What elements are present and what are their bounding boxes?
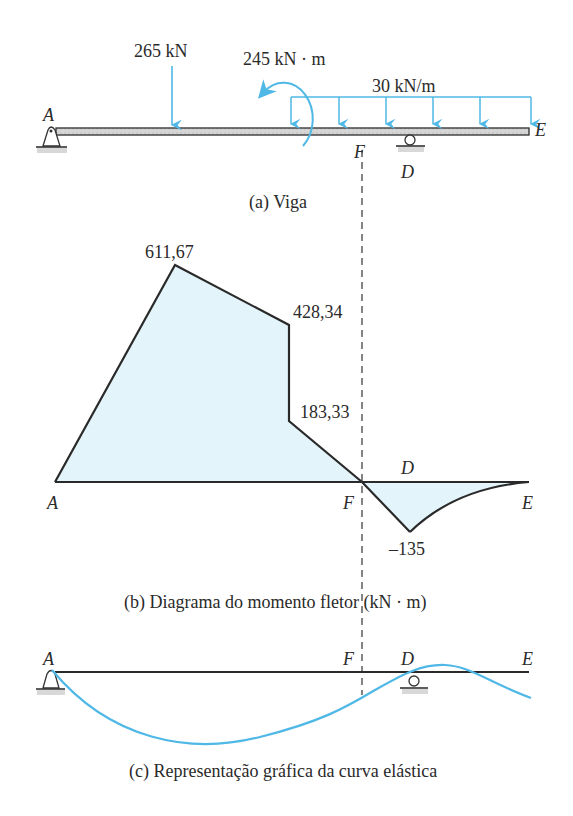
beam [56, 128, 529, 135]
moment-value-max: 611,67 [145, 243, 194, 261]
moment-value-min: –135 [389, 540, 425, 558]
point-label-a: A [43, 106, 54, 124]
point-load-label: 265 kN [134, 42, 188, 60]
roller-support-icon [400, 676, 428, 694]
curve-point-e: E [522, 650, 533, 668]
caption-b: (b) Diagrama do momento fletor (kN · m) [124, 593, 426, 611]
point-label-f: F [354, 143, 365, 161]
elastic-curve [52, 665, 531, 744]
curve-point-a: A [43, 650, 54, 668]
curve-point-d: D [401, 650, 414, 668]
moment-point-f: F [343, 494, 354, 512]
point-label-d: D [401, 163, 414, 181]
elastic-curve-section [36, 665, 531, 744]
moment-point-d: D [401, 459, 414, 477]
moment-arrow-icon [264, 83, 313, 146]
curve-point-f: F [343, 650, 354, 668]
moment-point-e: E [522, 494, 533, 512]
distributed-load-icon [291, 97, 531, 124]
moment-load-label: 245 kN · m [243, 50, 326, 68]
roller-support-icon [396, 135, 425, 152]
moment-value-428: 428,34 [293, 303, 343, 321]
moment-diagram [55, 265, 529, 532]
pin-support-icon [36, 671, 65, 696]
caption-c: (c) Representação gráfica da curva elást… [129, 762, 437, 780]
beam-diagram-canvas [0, 0, 573, 816]
caption-a: (a) Viga [249, 193, 307, 211]
distributed-load-label: 30 kN/m [372, 77, 436, 95]
point-label-e: E [535, 121, 546, 139]
moment-point-a: A [47, 494, 58, 512]
beam-section [36, 66, 531, 153]
moment-value-183: 183,33 [300, 403, 350, 421]
